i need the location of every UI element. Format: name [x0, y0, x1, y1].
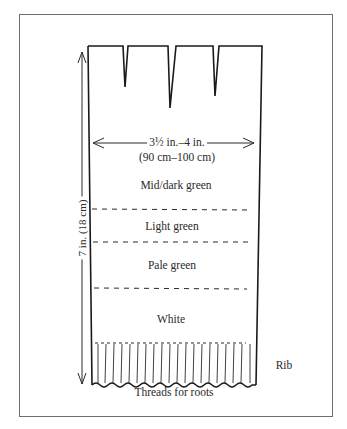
- rib-label: Rib: [276, 360, 293, 372]
- band-divider-1: [92, 209, 250, 210]
- piece-outline: [88, 46, 262, 385]
- band-label-white: White: [157, 314, 185, 326]
- band-label-pale-green: Pale green: [148, 260, 196, 272]
- width-label-line1: 3½ in.–4 in.: [149, 137, 204, 149]
- threads-for-roots-label: Threads for roots: [134, 387, 213, 399]
- band-divider-3: [94, 288, 247, 289]
- band-label-mid-dark-green: Mid/dark green: [140, 180, 211, 192]
- knitting-diagram: [0, 0, 347, 429]
- height-label: 7 in. (18 cm): [77, 197, 88, 260]
- band-label-light-green: Light green: [145, 221, 198, 233]
- width-label-line2: (90 cm–100 cm): [139, 152, 215, 164]
- rib-stripes: [98, 344, 250, 383]
